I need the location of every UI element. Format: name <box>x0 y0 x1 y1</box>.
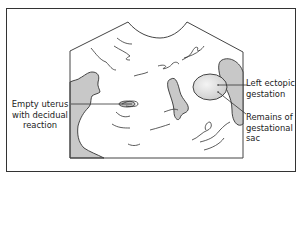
label-remains-sac: Remains of gestational sac <box>246 112 302 144</box>
label-left-ectopic: Left ectopic gestation <box>246 78 302 99</box>
ectopic-gestation-sac <box>193 74 227 100</box>
uterine-wall-shape <box>70 72 104 158</box>
label-empty-uterus: Empty uterus with decidual reaction <box>9 99 71 131</box>
middle-gray-structure <box>168 78 189 119</box>
